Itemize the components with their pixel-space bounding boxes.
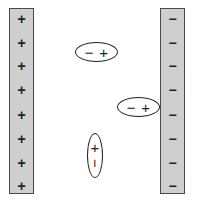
- positive-plate: + + + + + + + +: [9, 8, 34, 194]
- minus-sign: −: [85, 45, 94, 60]
- plus-sign: +: [91, 140, 100, 155]
- plus-sign: +: [10, 83, 33, 97]
- plus-sign: +: [10, 59, 33, 73]
- negative-plate: − − − − − − − −: [160, 8, 185, 194]
- minus-sign: −: [161, 83, 184, 97]
- plus-sign: +: [141, 100, 150, 115]
- plus-sign: +: [10, 132, 33, 146]
- plus-sign: +: [10, 156, 33, 170]
- minus-sign: −: [161, 108, 184, 122]
- plus-sign: +: [99, 45, 108, 60]
- minus-sign: −: [161, 179, 184, 193]
- dipole-horizontal-2: − +: [117, 97, 160, 117]
- plus-sign: +: [10, 36, 33, 50]
- plus-sign: +: [10, 12, 33, 26]
- plus-sign: +: [10, 108, 33, 122]
- minus-sign: −: [161, 12, 184, 26]
- plus-sign: +: [10, 179, 33, 193]
- minus-sign: −: [87, 159, 102, 168]
- minus-sign: −: [161, 156, 184, 170]
- dipole-horizontal-1: − +: [75, 42, 118, 62]
- dipole-vertical: + −: [87, 133, 103, 178]
- minus-sign: −: [161, 132, 184, 146]
- minus-sign: −: [161, 36, 184, 50]
- minus-sign: −: [127, 100, 136, 115]
- minus-sign: −: [161, 59, 184, 73]
